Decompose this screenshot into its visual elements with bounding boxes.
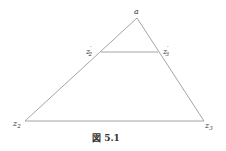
figure-caption: 図 5.1: [92, 133, 120, 143]
vertex-label-z2: z2: [12, 119, 21, 129]
vertex-label-z3: z3: [204, 121, 213, 131]
point-label-z3-prime: z′3: [162, 45, 169, 57]
triangle-outline: [25, 18, 204, 121]
point-label-z2-prime: z′2: [85, 45, 92, 57]
vertex-label-a: a: [134, 7, 139, 16]
triangle-figure: a z2 z3 z′2 z′3 図 5.1: [0, 0, 226, 151]
